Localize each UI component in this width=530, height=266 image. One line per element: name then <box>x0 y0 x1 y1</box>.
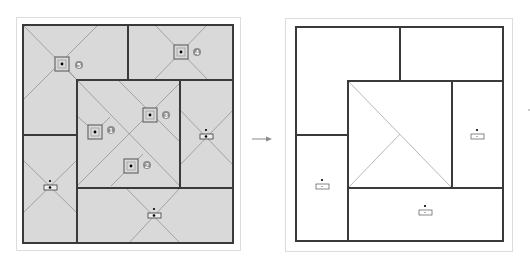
svg-text:3: 3 <box>164 112 168 119</box>
svg-text:4: 4 <box>195 49 199 56</box>
right-floor-plan <box>296 27 503 241</box>
svg-text:5: 5 <box>77 62 81 69</box>
svg-text:2: 2 <box>145 162 149 169</box>
left-floor-plan: 1 2 3 4 5 <box>23 25 233 243</box>
svg-text:1: 1 <box>109 127 113 134</box>
right-arrow-icon <box>252 137 272 142</box>
floor-plan-diagram: 1 2 3 4 5 <box>0 0 530 266</box>
